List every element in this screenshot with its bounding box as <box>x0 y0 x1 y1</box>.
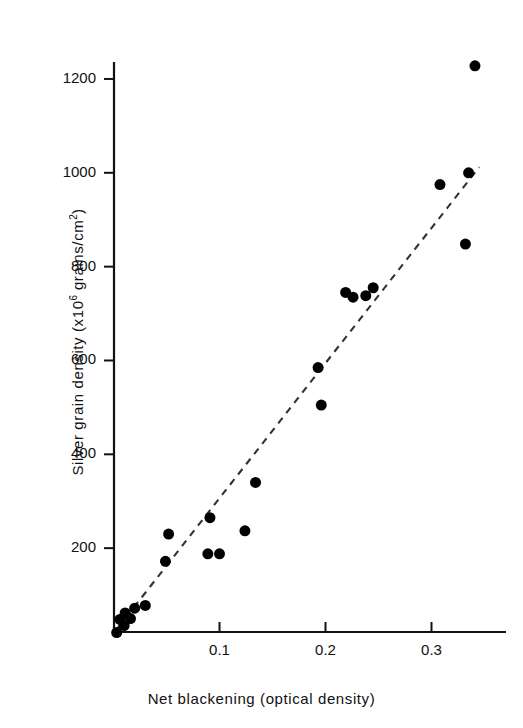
y-axis-title-exponent: 2 <box>68 214 79 220</box>
data-point <box>368 282 379 293</box>
data-point <box>202 548 213 559</box>
data-point <box>239 525 250 536</box>
data-point <box>204 512 215 523</box>
data-point <box>129 603 140 614</box>
data-point <box>214 548 225 559</box>
data-point <box>469 60 480 71</box>
x-tick-label: 0.2 <box>301 641 351 658</box>
data-point <box>163 529 174 540</box>
data-point <box>125 613 136 624</box>
data-point <box>160 556 171 567</box>
data-point <box>348 292 359 303</box>
x-tick-label: 0.1 <box>195 641 245 658</box>
y-axis-title: Silver grain density (x106 grains/cm2) <box>68 209 86 476</box>
y-axis-title-text: Silver grain density (x10 <box>69 300 86 475</box>
data-point <box>463 167 474 178</box>
chart-figure: 20040060080010001200 0.10.20.3 Silver gr… <box>0 0 523 728</box>
x-axis-title: Net blackening (optical density) <box>0 690 523 707</box>
data-point-group <box>111 60 480 638</box>
data-point <box>316 400 327 411</box>
y-axis-title-container: Silver grain density (x106 grains/cm2) <box>68 62 92 622</box>
y-axis-title-exponent: 6 <box>68 295 79 301</box>
trend-line <box>118 167 479 628</box>
data-point <box>313 362 324 373</box>
y-axis-title-text: ) <box>69 209 86 215</box>
x-axis-ticks <box>220 622 432 632</box>
x-tick-label: 0.3 <box>407 641 457 658</box>
data-point <box>460 239 471 250</box>
data-point <box>140 600 151 611</box>
y-axis-ticks <box>104 79 114 548</box>
data-point <box>250 477 261 488</box>
data-point <box>434 179 445 190</box>
y-axis-title-text: grains/cm <box>69 220 86 295</box>
